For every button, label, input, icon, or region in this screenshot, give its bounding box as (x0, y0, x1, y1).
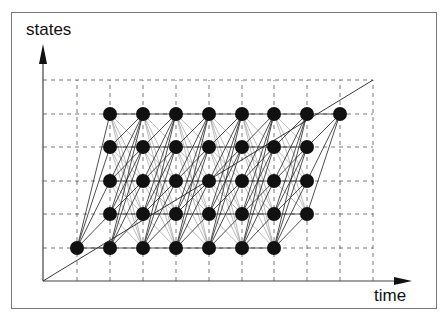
state-node (103, 207, 117, 221)
state-node (136, 174, 150, 188)
state-node (70, 241, 84, 255)
state-node (202, 207, 216, 221)
x-axis-arrow-icon (394, 277, 412, 285)
state-node (300, 140, 314, 154)
state-node (235, 207, 249, 221)
state-node (300, 174, 314, 188)
trellis-edge (307, 114, 340, 214)
state-node (136, 241, 150, 255)
y-axis-label: states (26, 20, 71, 40)
state-node (169, 207, 183, 221)
state-node (169, 107, 183, 121)
state-node (103, 107, 117, 121)
state-node (136, 107, 150, 121)
state-node (169, 174, 183, 188)
state-node (235, 107, 249, 121)
state-node (169, 140, 183, 154)
state-node (300, 107, 314, 121)
state-node (333, 107, 347, 121)
state-node (169, 241, 183, 255)
state-node (235, 174, 249, 188)
y-axis-arrow-icon (39, 44, 47, 64)
state-node (103, 241, 117, 255)
state-node (202, 241, 216, 255)
state-node (136, 140, 150, 154)
state-node (235, 241, 249, 255)
x-axis-label: time (374, 286, 406, 306)
state-node (103, 174, 117, 188)
state-node (103, 140, 117, 154)
state-node (267, 107, 281, 121)
state-node (267, 140, 281, 154)
state-node (136, 207, 150, 221)
trellis-edge (274, 214, 307, 248)
trellis-diagram (0, 0, 447, 322)
state-node (235, 140, 249, 154)
state-node (202, 140, 216, 154)
trellis-edge (77, 147, 110, 248)
state-node (202, 174, 216, 188)
state-node (300, 207, 314, 221)
state-node (267, 241, 281, 255)
state-node (267, 174, 281, 188)
state-node (267, 207, 281, 221)
state-node (202, 107, 216, 121)
trellis-edge (307, 114, 340, 147)
